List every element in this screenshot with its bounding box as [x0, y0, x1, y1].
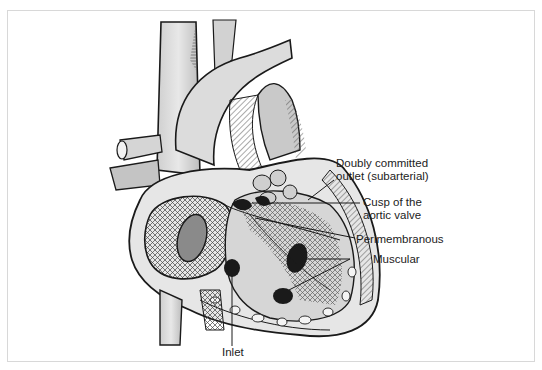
label-line: Doubly committed — [336, 157, 429, 170]
label-perimembranous: Perimembranous — [356, 233, 444, 246]
label-cusp-aortic-valve: Cusp of the aortic valve — [363, 196, 422, 222]
heart-body — [129, 158, 380, 345]
label-inlet: Inlet — [222, 346, 244, 359]
label-text: Perimembranous — [356, 233, 444, 245]
label-muscular: Muscular — [373, 253, 420, 266]
label-line: aortic valve — [363, 209, 422, 222]
label-line: Cusp of the — [363, 196, 422, 209]
heart-illustration — [0, 0, 542, 370]
label-doubly-committed-outlet: Doubly committed outlet (subarterial) — [336, 157, 429, 183]
label-line: outlet (subarterial) — [336, 170, 429, 183]
label-text: Inlet — [222, 346, 244, 358]
label-text: Muscular — [373, 253, 420, 265]
